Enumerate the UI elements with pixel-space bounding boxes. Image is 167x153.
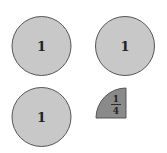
circle-label: 1 [37,110,46,125]
circle-label: 1 [37,39,46,54]
whole-circle-1: 1 [12,17,71,76]
fraction-denominator: 4 [113,106,119,116]
whole-circle-3: 1 [12,88,71,147]
quarter-circle: 1 4 [96,88,126,118]
circle-label: 1 [120,39,129,54]
whole-circle-2: 1 [96,17,155,76]
fraction-numerator: 1 [113,94,119,104]
fraction-diagram: 1 1 1 1 4 [0,0,167,153]
